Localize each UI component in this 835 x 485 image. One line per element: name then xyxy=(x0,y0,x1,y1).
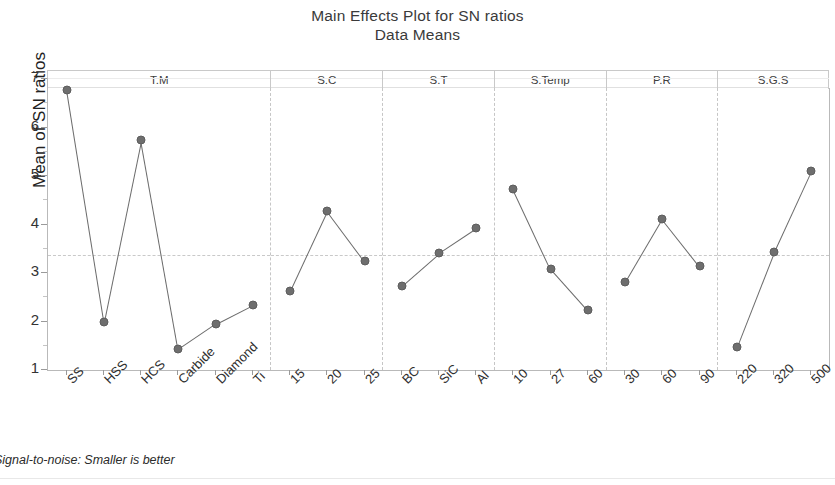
y-axis-label: 5 xyxy=(17,165,39,182)
gridline-top xyxy=(607,78,718,79)
panel-header-label: S.G.S xyxy=(758,74,789,86)
panel-s-g-s xyxy=(717,88,829,370)
data-line-segment xyxy=(513,189,551,269)
data-point[interactable] xyxy=(770,248,779,257)
data-line-segment xyxy=(178,324,216,350)
panel-header-t-m: T.M xyxy=(47,71,270,89)
panel-header-strip: T.MS.CS.TS.TempP.RS.G.S xyxy=(47,70,829,88)
data-line-segment xyxy=(140,140,178,349)
y-axis-label: 1 xyxy=(17,359,39,376)
y-axis-tick xyxy=(41,127,47,128)
y-axis-tick xyxy=(41,224,47,225)
panel-s-c xyxy=(270,88,382,370)
data-line-segment xyxy=(439,228,477,254)
data-line-segment xyxy=(737,252,775,347)
data-point[interactable] xyxy=(583,306,592,315)
y-axis-minor-tick xyxy=(43,248,47,249)
y-axis-tick xyxy=(41,78,47,79)
data-line-segment xyxy=(402,253,440,286)
panel-header-s-t: S.T xyxy=(382,71,494,89)
data-point[interactable] xyxy=(546,264,555,273)
y-axis-tick xyxy=(41,175,47,176)
reference-line xyxy=(495,255,606,256)
panel-s-t xyxy=(382,88,494,370)
data-line-segment xyxy=(774,171,812,252)
panel-header-label: P.R xyxy=(653,74,671,86)
y-axis-minor-tick xyxy=(43,151,47,152)
gridline-top xyxy=(271,78,382,79)
data-point[interactable] xyxy=(732,343,741,352)
footnote: Signal-to-noise: Smaller is better xyxy=(0,453,175,467)
data-point[interactable] xyxy=(248,300,257,309)
panel-plot-area xyxy=(271,88,382,370)
data-line-segment xyxy=(550,269,588,311)
data-line-segment xyxy=(662,219,700,267)
panel-plot-area xyxy=(607,88,718,370)
data-point[interactable] xyxy=(621,278,630,287)
panel-plot-area xyxy=(383,88,494,370)
data-line-segment xyxy=(625,219,663,283)
y-axis-tick xyxy=(41,369,47,370)
data-line-segment xyxy=(104,140,142,322)
data-line-segment xyxy=(290,211,328,291)
panel-header-label: S.Temp xyxy=(531,74,570,86)
data-point[interactable] xyxy=(62,86,71,95)
reference-line xyxy=(271,255,382,256)
y-axis-minor-tick xyxy=(43,296,47,297)
data-point[interactable] xyxy=(397,281,406,290)
chart-subtitle: Data Means xyxy=(0,25,835,44)
y-axis-minor-tick xyxy=(43,102,47,103)
panel-header-p-r: P.R xyxy=(606,71,718,89)
y-axis-tick xyxy=(41,321,47,322)
y-axis-label: 4 xyxy=(17,214,39,231)
gridline-top xyxy=(48,78,270,79)
data-point[interactable] xyxy=(658,214,667,223)
data-point[interactable] xyxy=(695,261,704,270)
y-axis-minor-tick xyxy=(43,199,47,200)
y-axis-tick xyxy=(41,272,47,273)
data-point[interactable] xyxy=(174,345,183,354)
data-point[interactable] xyxy=(286,287,295,296)
panel-header-label: S.C xyxy=(317,74,336,86)
data-point[interactable] xyxy=(211,319,220,328)
data-point[interactable] xyxy=(323,207,332,216)
panel-p-r xyxy=(606,88,718,370)
data-point[interactable] xyxy=(807,167,816,176)
panel-plot-area xyxy=(718,88,829,370)
y-axis-label: 2 xyxy=(17,311,39,328)
panel-s-temp xyxy=(494,88,606,370)
panel-plot-area xyxy=(48,88,270,370)
data-point[interactable] xyxy=(360,257,369,266)
gridline-top xyxy=(495,78,606,79)
panel-header-label: S.T xyxy=(430,74,448,86)
panel-header-s-temp: S.Temp xyxy=(494,71,606,89)
bottom-divider xyxy=(0,478,835,479)
data-point[interactable] xyxy=(137,136,146,145)
main-effects-plot: T.MS.CS.TS.TempP.RS.G.S 1234567 SSHSSHCS… xyxy=(47,70,829,370)
gridline-top xyxy=(383,78,494,79)
page-title: Main Effects Plot for SN ratios xyxy=(0,6,835,25)
y-axis-minor-tick xyxy=(43,345,47,346)
gridline-top xyxy=(718,78,829,79)
data-point[interactable] xyxy=(472,224,481,233)
reference-line xyxy=(607,255,718,256)
chart-title-block: Main Effects Plot for SN ratios Data Mea… xyxy=(0,6,835,44)
panel-header-s-c: S.C xyxy=(270,71,382,89)
panel-t-m xyxy=(47,88,270,370)
data-point[interactable] xyxy=(434,249,443,258)
reference-line xyxy=(48,255,270,256)
data-point[interactable] xyxy=(99,317,108,326)
y-axis-label: 7 xyxy=(17,68,39,85)
data-line-segment xyxy=(66,90,104,322)
panel-header-label: T.M xyxy=(150,74,169,86)
y-axis-label: 6 xyxy=(17,117,39,134)
data-line-segment xyxy=(216,305,254,325)
panel-plot-area xyxy=(495,88,606,370)
data-point[interactable] xyxy=(509,185,518,194)
y-axis-line xyxy=(47,78,48,370)
y-axis-label: 3 xyxy=(17,262,39,279)
panel-header-s-g-s: S.G.S xyxy=(717,71,829,89)
